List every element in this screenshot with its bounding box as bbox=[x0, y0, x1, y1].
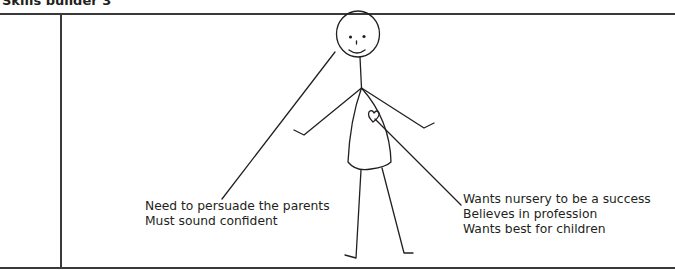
left-eye bbox=[349, 35, 352, 38]
annotation-line: Believes in profession bbox=[463, 207, 651, 222]
right-annotation: Wants nursery to be a success Believes i… bbox=[463, 192, 651, 237]
smile bbox=[349, 50, 365, 53]
heart-icon bbox=[369, 111, 380, 122]
annotation-line: Must sound confident bbox=[145, 214, 330, 229]
right-leg bbox=[382, 168, 413, 253]
left-leg bbox=[345, 170, 361, 258]
annotation-line: Wants nursery to be a success bbox=[463, 192, 651, 207]
head bbox=[337, 11, 380, 57]
annotation-line: Need to persuade the parents bbox=[145, 199, 330, 214]
neck bbox=[360, 57, 362, 88]
left-pointer-line bbox=[222, 52, 335, 199]
annotation-line: Wants best for children bbox=[463, 222, 651, 237]
left-annotation: Need to persuade the parents Must sound … bbox=[145, 199, 330, 229]
right-eye bbox=[362, 35, 365, 38]
